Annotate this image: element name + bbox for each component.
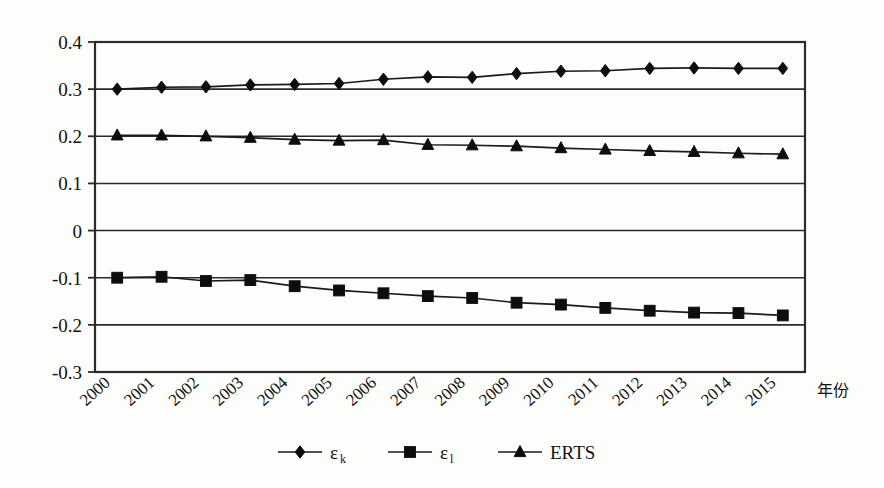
x-axis-label: 2010	[520, 373, 558, 410]
x-axis-label: 2008	[431, 373, 469, 410]
marker-triangle	[378, 134, 390, 145]
marker-diamond	[600, 65, 610, 77]
x-axis-label-group: 2004	[253, 373, 291, 410]
marker-diamond	[512, 67, 522, 79]
series-line-ERTS	[117, 135, 783, 154]
marker-square	[644, 305, 655, 316]
marker-diamond	[734, 62, 744, 74]
marker-triangle	[156, 129, 168, 140]
marker-diamond	[157, 81, 167, 93]
series-line-εl	[117, 277, 783, 316]
legend-label-εk: ε	[330, 442, 338, 463]
x-axis-label: 2001	[120, 373, 158, 410]
marker-diamond	[689, 62, 699, 74]
marker-square	[600, 302, 611, 313]
x-axis-label: 2015	[742, 373, 780, 410]
x-axis-label-group: 2014	[697, 373, 735, 410]
y-axis-label: 0.2	[58, 126, 82, 147]
x-axis-label-group: 2005	[298, 373, 336, 410]
y-axis-label: -0.2	[52, 315, 82, 336]
plot-frame	[95, 42, 805, 372]
x-axis-label: 2005	[298, 373, 336, 410]
chart-canvas: 0.40.30.20.10-0.1-0.2-0.3200020012002200…	[0, 0, 884, 488]
marker-diamond	[201, 81, 211, 93]
marker-diamond	[556, 65, 566, 77]
marker-diamond	[467, 71, 477, 83]
marker-diamond	[645, 62, 655, 74]
series-line-εk	[117, 68, 783, 89]
x-axis-label-group: 2013	[653, 373, 691, 410]
marker-square	[556, 299, 567, 310]
marker-square	[289, 281, 300, 292]
marker-diamond	[423, 71, 433, 83]
x-axis-label: 2006	[342, 373, 380, 410]
marker-square	[156, 271, 167, 282]
legend-label-ERTS: ERTS	[550, 442, 595, 463]
marker-diamond	[778, 62, 788, 74]
x-axis-label: 2003	[209, 373, 247, 410]
marker-square	[334, 285, 345, 296]
x-axis-label-group: 2006	[342, 373, 380, 410]
x-axis-label: 2011	[564, 373, 602, 409]
marker-square	[405, 447, 416, 458]
marker-square	[689, 307, 700, 318]
x-axis-label: 2014	[697, 373, 735, 410]
marker-square	[422, 291, 433, 302]
marker-square	[777, 310, 788, 321]
marker-square	[467, 293, 478, 304]
marker-square	[245, 275, 256, 286]
marker-diamond	[334, 77, 344, 89]
x-axis-label-group: 2015	[742, 373, 780, 410]
marker-square	[378, 288, 389, 299]
marker-triangle	[466, 139, 478, 150]
x-axis-label: 2007	[387, 373, 425, 410]
x-axis-label-group: 2009	[475, 373, 513, 410]
x-axis-label: 2013	[653, 373, 691, 410]
marker-square	[511, 297, 522, 308]
marker-diamond	[112, 83, 122, 95]
chart-figure: 0.40.30.20.10-0.1-0.2-0.3200020012002200…	[0, 0, 884, 488]
x-axis-label: 2002	[165, 373, 203, 410]
legend-sublabel-εl: l	[450, 452, 454, 466]
x-axis-label-group: 2011	[564, 373, 602, 409]
marker-square	[112, 272, 123, 283]
x-axis-label-group: 2007	[387, 373, 425, 410]
y-axis-label: -0.1	[52, 268, 82, 289]
x-axis-label: 2009	[475, 373, 513, 410]
y-axis-label: 0.4	[58, 32, 82, 53]
line-chart: 0.40.30.20.10-0.1-0.2-0.3200020012002200…	[0, 0, 884, 488]
x-axis-label-group: 2002	[165, 373, 203, 410]
marker-diamond	[295, 446, 305, 458]
x-axis-label-group: 2008	[431, 373, 469, 410]
marker-diamond	[379, 73, 389, 85]
legend-sublabel-εk: k	[340, 452, 346, 466]
y-axis-label: 0.3	[58, 79, 82, 100]
y-axis-label: 0	[73, 221, 83, 242]
marker-triangle	[111, 129, 123, 140]
marker-triangle	[514, 446, 526, 457]
x-axis-label-group: 2010	[520, 373, 558, 410]
x-axis-label-group: 2003	[209, 373, 247, 410]
legend-label-εl: ε	[440, 442, 448, 463]
x-axis-title: 年份	[817, 381, 849, 400]
x-axis-label-group: 2012	[608, 373, 646, 410]
marker-square	[733, 308, 744, 319]
marker-square	[201, 276, 212, 287]
x-axis-label: 2004	[253, 373, 291, 410]
x-axis-label-group: 2001	[120, 373, 158, 410]
x-axis-label: 2012	[608, 373, 646, 410]
y-axis-label: -0.3	[52, 362, 82, 383]
y-axis-label: 0.1	[58, 173, 82, 194]
